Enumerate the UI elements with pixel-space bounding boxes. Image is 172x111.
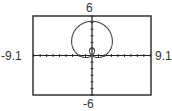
xmax-label: 9.1 xyxy=(155,50,172,62)
xmin-label: -9.1 xyxy=(1,50,22,62)
graph-viewport xyxy=(0,0,172,111)
ymin-label: -6 xyxy=(83,98,94,110)
ymax-label: 6 xyxy=(86,2,93,14)
